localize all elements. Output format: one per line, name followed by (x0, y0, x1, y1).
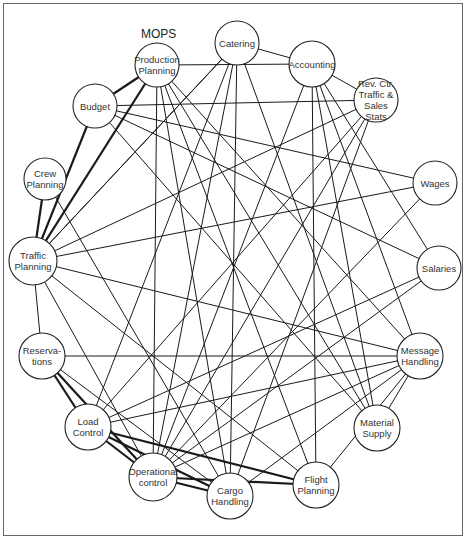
node-label: Accounting (288, 59, 335, 70)
node-label: Catering (219, 38, 255, 49)
node-label: control (139, 477, 168, 488)
node-label: Supply (362, 428, 391, 439)
edge-bud-rev (95, 100, 376, 106)
node-rev: Rev. Ctr.Traffic &SalesStats (354, 78, 398, 122)
node-label: Reserva- (23, 345, 62, 356)
node-label: Planning (15, 261, 52, 272)
edge-cat-car (230, 43, 237, 496)
node-label: Traffic (20, 250, 46, 261)
node-label: Budget (80, 101, 110, 112)
node-label: Salaries (422, 263, 457, 274)
node-label: Handling (401, 356, 439, 367)
node-label: Wages (420, 178, 449, 189)
edge-ops-sal (153, 268, 439, 477)
node-label: Control (73, 427, 104, 438)
node-label: Operational (128, 466, 177, 477)
node-msg: MessageHandling (397, 333, 443, 379)
edge-tra-msg (33, 261, 420, 356)
node-label: Message (401, 345, 440, 356)
node-label: Planning (27, 179, 64, 190)
node-label: Load (77, 416, 98, 427)
node-prod: ProductionPlanning (134, 43, 179, 87)
node-label: Cargo (217, 485, 243, 496)
edge-prod-mat (157, 65, 377, 428)
node-label: tions (32, 356, 52, 367)
node-label: Traffic & (359, 89, 395, 100)
node-label: Material (360, 417, 394, 428)
node-tra: TrafficPlanning (9, 237, 57, 285)
node-label: Planning (139, 65, 176, 76)
node-ops: Operationalcontrol (128, 453, 177, 501)
node-car: CargoHandling (207, 473, 253, 519)
node-res: Reserva-tions (19, 333, 65, 379)
node-label: Crew (34, 168, 56, 179)
edge-acc-ops (153, 64, 312, 477)
node-label: Production (134, 54, 179, 65)
node-crw: CrewPlanning (24, 158, 66, 200)
network-diagram: MOPS ProductionPlanningCateringAccountin… (0, 0, 467, 542)
edge-bud-sal (95, 106, 439, 268)
node-fli: FlightPlanning (293, 462, 339, 508)
node-sal: Salaries (417, 246, 461, 290)
node-label: Rev. Ctr. (358, 78, 394, 89)
node-label: Sales (364, 100, 388, 111)
edge-prod-ops (153, 65, 157, 477)
edge-prod-car (157, 65, 230, 496)
edge-lod-fli (88, 427, 316, 485)
node-label: Flight (304, 474, 328, 485)
edge-acc-fli (312, 64, 316, 485)
node-label: Planning (298, 485, 335, 496)
node-acc: Accounting (288, 41, 335, 87)
edge-tra-cat (33, 43, 237, 261)
node-cat: Catering (215, 21, 259, 65)
node-wag: Wages (413, 161, 457, 205)
node-mat: MaterialSupply (354, 405, 400, 451)
node-label: Handling (211, 496, 249, 507)
node-lod: LoadControl (65, 404, 111, 450)
node-label: Stats (365, 111, 387, 122)
diagram-title: MOPS (141, 27, 176, 41)
edge-bud-mat (95, 106, 377, 428)
node-bud: Budget (73, 84, 117, 128)
